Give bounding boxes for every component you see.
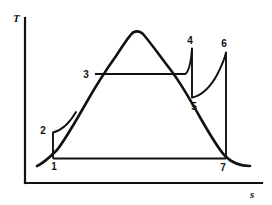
- ts-diagram-canvas: T s 1 2 3 4 5 6 7: [0, 0, 272, 205]
- saturation-dome-curve: [37, 31, 250, 166]
- process-superheat-to-4: [186, 49, 193, 75]
- state-point-label-1: 1: [51, 161, 57, 172]
- state-point-label-3: 3: [83, 69, 89, 80]
- state-point-label-5: 5: [191, 101, 197, 112]
- process-2-3-feedwater: [53, 112, 76, 133]
- state-point-label-4: 4: [187, 35, 193, 46]
- ts-diagram-figure: T s 1 2 3 4 5 6 7: [0, 0, 272, 205]
- state-point-label-7: 7: [220, 162, 226, 173]
- x-axis-label: s: [249, 188, 254, 200]
- state-point-label-2: 2: [40, 125, 46, 136]
- state-point-label-6: 6: [221, 38, 227, 49]
- process-5-6-reheat: [192, 53, 226, 98]
- y-axis-label: T: [13, 12, 21, 24]
